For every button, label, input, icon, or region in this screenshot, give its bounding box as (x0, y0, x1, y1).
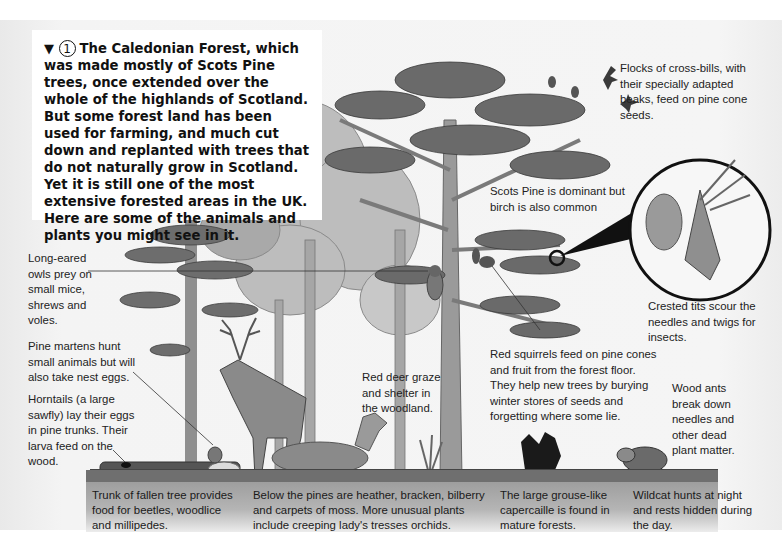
label-pine-martens: Pine martens hunt small animals but will… (28, 339, 138, 386)
intro-paragraph: The Caledonian Forest, which was made mo… (44, 41, 309, 243)
caption-wildcat: Wildcat hunts at night and rests hidden … (633, 488, 753, 533)
label-red-squirrels: Red squirrels feed on pine cones and fru… (490, 347, 662, 425)
owl-icon (427, 265, 443, 300)
caption-capercaille: The large grouse-like capercaille is fou… (500, 488, 612, 533)
label-horntails: Horntails (a large sawfly) lay their egg… (28, 392, 146, 470)
label-red-deer: Red deer graze and shelter in the woodla… (362, 370, 442, 417)
caption-understory: Below the pines are heather, bracken, bi… (253, 488, 493, 533)
triangle-marker-icon: ▼ (44, 41, 54, 56)
red-squirrel-icon (472, 248, 495, 268)
intro-text-box: ▼ 1The Caledonian Forest, which was made… (32, 30, 322, 220)
label-crested-tits: Crested tits scour the needles and twigs… (648, 299, 760, 346)
pine-marten-icon (208, 447, 222, 463)
label-wood-ants: Wood ants break down needles and other d… (672, 381, 744, 459)
step-number-badge: 1 (59, 40, 76, 57)
crested-tit-callout (550, 160, 770, 300)
label-long-eared-owls: Long-eared owls prey on small mice, shre… (28, 251, 96, 329)
orchid-plant-icon (420, 435, 442, 470)
label-crossbills: Flocks of cross-bills, with their specia… (620, 61, 770, 123)
capercaillie-icon (521, 432, 561, 470)
label-scots-pine: Scots Pine is dominant but birch is also… (490, 184, 640, 215)
caption-fallen-tree: Trunk of fallen tree provides food for b… (92, 488, 242, 533)
